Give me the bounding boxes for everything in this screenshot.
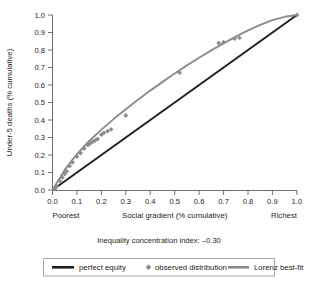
y-tick-label: 1.0 — [34, 11, 45, 20]
y-tick-label: 0.7 — [34, 63, 45, 72]
x-axis-richest-label: Richest — [271, 211, 298, 220]
y-tick-label: 0.9 — [34, 28, 45, 37]
y-tick-label: 0.3 — [34, 133, 45, 142]
y-tick-label: 0.0 — [34, 186, 45, 195]
legend-label-lorenz-best-fit: Lorenz best-fit — [254, 263, 304, 272]
x-tick-label: 0.2 — [96, 197, 107, 206]
y-tick-label: 0.1 — [34, 168, 45, 177]
x-tick-label: 0.8 — [243, 197, 254, 206]
x-tick-label: 0.5 — [169, 197, 180, 206]
x-tick-label: 0.4 — [145, 197, 156, 206]
y-tick-label: 0.8 — [34, 46, 45, 55]
inequality-index-caption: Inequality concentration index: –0.30 — [97, 236, 221, 245]
x-tick-label: 0.1 — [72, 197, 83, 206]
x-tick-label: 1.0 — [292, 197, 303, 206]
y-tick-label: 0.6 — [34, 81, 45, 90]
x-axis-title: Social gradient (% cumulative) — [122, 211, 228, 220]
x-tick-label: 0.6 — [194, 197, 205, 206]
y-tick-label: 0.5 — [34, 98, 45, 107]
y-tick-label: 0.2 — [34, 151, 45, 160]
y-tick-label: 0.4 — [34, 116, 45, 125]
y-axis-title: Under-5 deaths (% cumulative) — [5, 48, 14, 156]
legend-label-perfect-equity: perfect equity — [79, 263, 126, 272]
lorenz-curve-chart: 0.0 0.1 0.2 0.3 0.4 0.5 0.6 0.7 0.8 0.9 … — [0, 0, 317, 286]
chart-figure: 0.0 0.1 0.2 0.3 0.4 0.5 0.6 0.7 0.8 0.9 … — [0, 0, 317, 286]
x-tick-label: 0.9 — [267, 197, 278, 206]
x-tick-label: 0.3 — [121, 197, 132, 206]
x-axis-poorest-label: Poorest — [53, 211, 81, 220]
chart-legend: perfect equity observed distribution Lor… — [44, 259, 305, 277]
x-tick-label: 0.0 — [47, 197, 58, 206]
x-tick-label: 0.7 — [218, 197, 229, 206]
legend-label-observed-distribution: observed distribution — [155, 263, 227, 272]
